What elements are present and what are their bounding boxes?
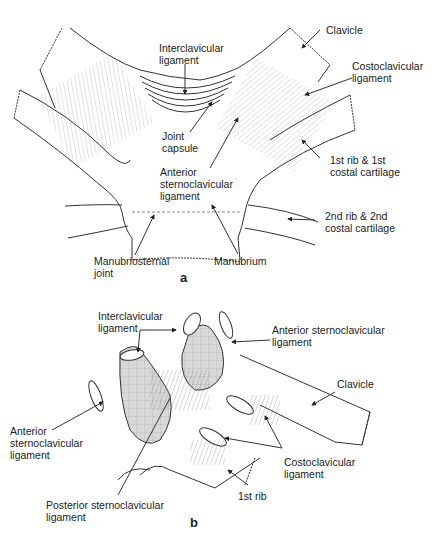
label-manubriosternal-line1: Manubriosternal — [94, 255, 169, 267]
label-interclavicular-a-line2: ligament — [159, 54, 199, 66]
label-first-rib-a-line2: costal cartilage — [330, 166, 400, 178]
label-anterior-sc-b-left-line3: ligament — [10, 449, 50, 461]
label-anterior-sc-b-left-line1: Anterior — [10, 425, 47, 437]
label-costoclavicular-a-line1: Costoclavicular — [352, 60, 423, 72]
label-joint-capsule-line2: capsule — [162, 142, 198, 154]
label-first-rib-a-line1: 1st rib & 1st — [330, 154, 385, 166]
label-interclavicular-b-line1: Interclavicular — [98, 310, 163, 322]
label-interclavicular-a-line1: Interclavicular — [159, 42, 224, 54]
label-anterior-sc-a-line2: sternoclavicular — [160, 178, 233, 190]
label-interclavicular-b-line2: ligament — [98, 322, 138, 334]
label-anterior-sc-a-line3: ligament — [160, 190, 200, 202]
label-joint-capsule-line1: Joint — [162, 130, 184, 142]
label-anterior-sc-b-right-line2: ligament — [272, 336, 312, 348]
label-anterior-sc-a-line1: Anterior — [160, 166, 197, 178]
label-manubriosternal-line2: joint — [94, 267, 113, 279]
panel-letter-b: b — [190, 515, 198, 530]
label-costoclavicular-b-line1: Costoclavicular — [284, 456, 355, 468]
panel-letter-a: a — [180, 270, 187, 285]
label-costoclavicular-a-line2: ligament — [352, 72, 392, 84]
label-posterior-sc-line2: ligament — [46, 511, 86, 523]
label-anterior-sc-b-right-line1: Anterior sternoclavicular — [272, 324, 385, 336]
label-first-rib-b: 1st rib — [238, 490, 267, 502]
label-costoclavicular-b-line2: ligament — [284, 468, 324, 480]
label-clavicle-b: Clavicle — [337, 378, 374, 390]
label-posterior-sc-line1: Posterior sternoclavicular — [46, 499, 164, 511]
label-anterior-sc-b-left-line2: sternoclavicular — [10, 437, 83, 449]
label-manubrium: Manubrium — [214, 255, 267, 267]
label-second-rib-line1: 2nd rib & 2nd — [325, 210, 387, 222]
label-second-rib-line2: costal cartilage — [325, 222, 395, 234]
label-clavicle-a: Clavicle — [326, 24, 363, 36]
